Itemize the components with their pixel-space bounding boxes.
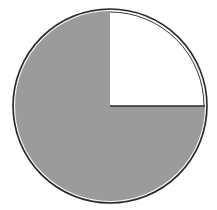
fraction-circle-diagram bbox=[0, 0, 217, 210]
circle-figure bbox=[0, 0, 217, 210]
